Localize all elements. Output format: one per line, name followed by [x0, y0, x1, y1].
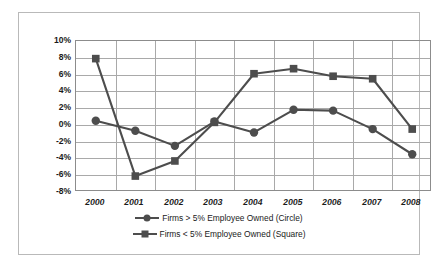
data-point-circle	[408, 150, 416, 158]
data-point-square	[132, 172, 140, 180]
legend-marker-square-icon	[133, 233, 157, 235]
legend-item: Firms < 5% Employee Owned (Square)	[133, 229, 306, 239]
y-tick-label: 8%	[27, 52, 71, 62]
data-point-circle	[131, 127, 139, 135]
x-tick-label: 2002	[163, 197, 184, 207]
y-tick-label: -2%	[27, 136, 71, 146]
data-point-circle	[250, 128, 258, 136]
x-tick-label: 2008	[401, 197, 422, 207]
data-point-square	[408, 125, 416, 133]
x-tick-label: 2005	[282, 197, 303, 207]
data-point-square	[211, 119, 219, 127]
y-tick-label: 4%	[27, 85, 71, 95]
data-point-square	[329, 72, 337, 80]
data-point-square	[369, 75, 377, 83]
plot-area	[75, 40, 431, 191]
legend-label: Firms > 5% Employee Owned (Circle)	[162, 213, 302, 223]
chart-frame: 10%8%6%4%2%0%-2%-4%-6%-8% 20002001200220…	[18, 12, 420, 255]
x-tick-label: 2004	[243, 197, 264, 207]
series-lines	[76, 41, 432, 192]
y-tick-label: 10%	[27, 35, 71, 45]
y-tick-label: 0%	[27, 119, 71, 129]
data-point-square	[250, 70, 258, 78]
legend-marker-circle-icon	[135, 217, 159, 219]
circle-icon	[144, 214, 151, 221]
data-point-circle	[329, 106, 337, 114]
y-tick-label: -8%	[27, 186, 71, 196]
data-point-circle	[368, 125, 376, 133]
data-point-square	[171, 157, 179, 165]
data-point-circle	[289, 106, 297, 114]
data-point-square	[92, 55, 100, 63]
y-tick-label: -6%	[27, 169, 71, 179]
x-tick-label: 2006	[322, 197, 343, 207]
data-point-square	[290, 65, 298, 73]
y-tick-label: 6%	[27, 69, 71, 79]
chart-legend: Firms > 5% Employee Owned (Circle)Firms …	[19, 213, 419, 239]
legend-item: Firms > 5% Employee Owned (Circle)	[135, 213, 302, 223]
data-point-circle	[92, 116, 100, 124]
x-tick-label: 2001	[124, 197, 145, 207]
y-tick-label: -4%	[27, 152, 71, 162]
legend-label: Firms < 5% Employee Owned (Square)	[160, 229, 306, 239]
x-tick-label: 2007	[361, 197, 382, 207]
x-tick-label: 2003	[203, 197, 224, 207]
square-icon	[141, 230, 148, 237]
data-point-circle	[171, 142, 179, 150]
x-tick-label: 2000	[84, 197, 105, 207]
y-tick-label: 2%	[27, 102, 71, 112]
